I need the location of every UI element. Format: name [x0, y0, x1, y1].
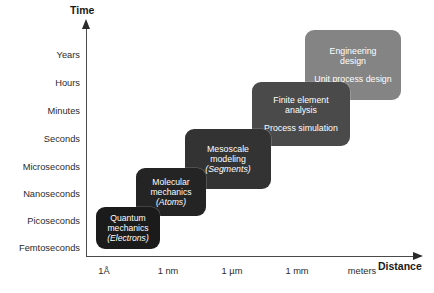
- y-axis-tick-label: Femtoseconds: [19, 243, 80, 253]
- x-axis-arrow-icon: [413, 252, 423, 260]
- step-box-label: design: [340, 56, 366, 66]
- x-axis-tick-label: 1 µm: [222, 266, 243, 276]
- y-axis-tick-label: Hours: [55, 78, 80, 88]
- step-box-label: (Segments): [205, 164, 250, 174]
- step-box-label: Mesoscale: [207, 144, 249, 154]
- step-box-label: analysis: [285, 105, 317, 115]
- step-box-label: Engineering: [330, 46, 377, 56]
- step-box-quantum-mechanics[interactable]: Quantummechanics(Electrons): [96, 207, 160, 249]
- step-box-label: modeling: [210, 154, 246, 164]
- step-box-label: mechanics: [107, 223, 148, 233]
- x-axis-tick-label: 1Å: [98, 266, 109, 276]
- y-axis-line: [86, 27, 87, 257]
- step-box-label: Quantum: [110, 213, 145, 223]
- x-axis-title: Distance: [378, 260, 422, 272]
- step-box-label: Molecular: [152, 177, 189, 187]
- step-box-label: (Atoms): [156, 197, 186, 207]
- y-axis-tick-label: Seconds: [44, 134, 80, 144]
- x-axis-tick-label: 1 nm: [158, 266, 179, 276]
- step-box-label: Process simulation: [264, 123, 338, 133]
- y-axis-tick-label: Microseconds: [23, 162, 80, 172]
- y-axis-arrow-icon: [82, 19, 90, 29]
- y-axis-tick-label: Years: [57, 50, 80, 60]
- diagram-canvas: Time Distance YearsHoursMinutesSecondsMi…: [0, 0, 434, 293]
- y-axis-tick-label: Nanoseconds: [23, 189, 80, 199]
- x-axis-tick-label: meters: [348, 266, 376, 276]
- step-box-label: (Electrons): [107, 233, 149, 243]
- y-axis-tick-label: Picoseconds: [27, 216, 80, 226]
- step-box-label: Finite element: [273, 95, 328, 105]
- step-box-label: mechanics: [150, 187, 191, 197]
- y-axis-tick-labels: YearsHoursMinutesSecondsMicrosecondsNano…: [0, 0, 80, 293]
- x-axis-line: [86, 256, 417, 257]
- x-axis-tick-label: 1 mm: [285, 266, 308, 276]
- y-axis-tick-label: Minutes: [47, 106, 80, 116]
